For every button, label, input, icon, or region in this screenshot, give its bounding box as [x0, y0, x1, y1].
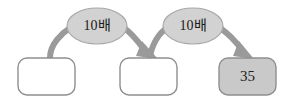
flow-diagram: 35 10배 10배 [0, 0, 286, 106]
multiplier-ellipse-1-label: 10배 [84, 18, 111, 33]
diagram-canvas: 35 10배 10배 [0, 0, 286, 106]
multiplier-ellipse-2-label: 10배 [180, 18, 207, 33]
value-box-2[interactable] [120, 58, 177, 95]
value-box-1[interactable] [18, 58, 75, 95]
arrow-1-stem-left [50, 28, 70, 58]
value-box-3-label: 35 [240, 68, 255, 84]
